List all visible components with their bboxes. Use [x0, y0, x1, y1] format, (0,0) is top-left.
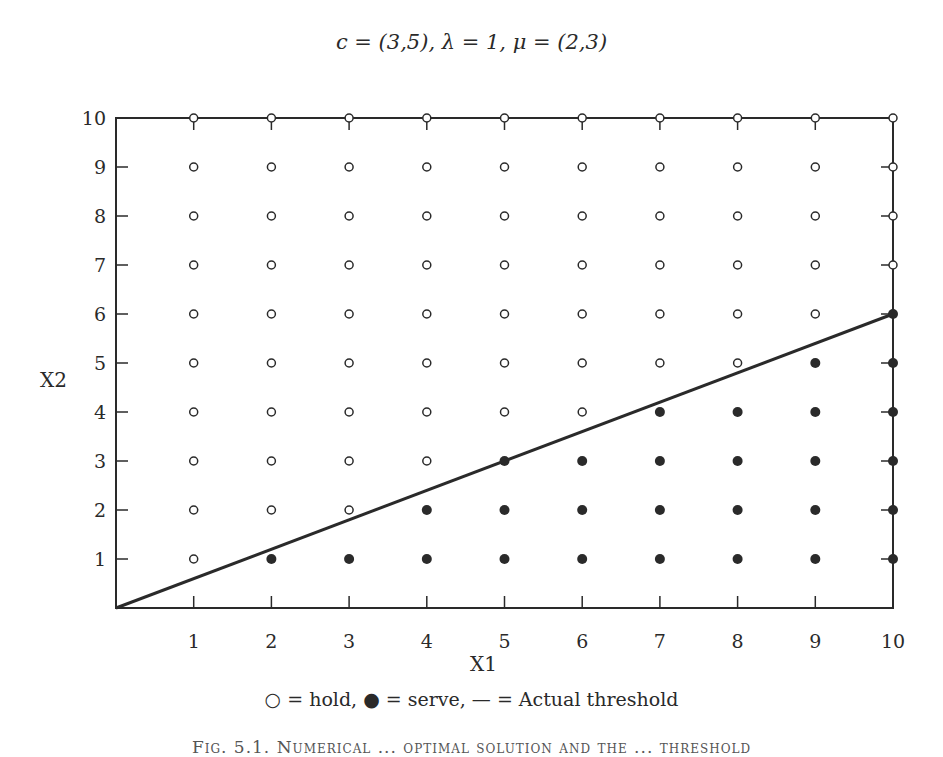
x-tick-label: 8	[732, 630, 744, 652]
serve-point	[888, 554, 898, 564]
y-tick-label: 2	[94, 499, 106, 521]
hold-point	[889, 114, 897, 122]
serve-point	[888, 505, 898, 515]
serve-point	[810, 505, 820, 515]
x-tick-label: 6	[576, 630, 588, 652]
hold-point	[578, 163, 586, 171]
serve-point	[733, 554, 743, 564]
serve-point	[655, 407, 665, 417]
y-tick-label: 9	[94, 156, 106, 178]
hold-point	[190, 114, 198, 122]
hold-point	[190, 163, 198, 171]
hold-point	[267, 310, 275, 318]
hold-point	[267, 212, 275, 220]
serve-point	[655, 554, 665, 564]
hold-point	[734, 212, 742, 220]
hold-point	[889, 261, 897, 269]
hold-point	[267, 359, 275, 367]
hold-point	[267, 408, 275, 416]
hold-point	[734, 114, 742, 122]
hold-point	[811, 163, 819, 171]
hold-point	[345, 163, 353, 171]
hold-point	[345, 408, 353, 416]
hold-point	[501, 114, 509, 122]
hold-point	[423, 261, 431, 269]
hold-point	[267, 163, 275, 171]
hold-point	[190, 310, 198, 318]
serve-point	[266, 554, 276, 564]
hold-point	[190, 359, 198, 367]
serve-point	[577, 456, 587, 466]
hold-point	[501, 310, 509, 318]
hold-point	[190, 212, 198, 220]
hold-point	[656, 212, 664, 220]
serve-point	[577, 554, 587, 564]
y-tick-label: 4	[94, 401, 106, 423]
hold-point	[578, 114, 586, 122]
hold-point	[267, 457, 275, 465]
hold-point	[811, 310, 819, 318]
serve-point	[655, 456, 665, 466]
y-tick-label: 7	[94, 254, 106, 276]
y-tick-label: 6	[94, 303, 106, 325]
hold-point	[345, 261, 353, 269]
hold-point	[345, 457, 353, 465]
hold-point	[345, 114, 353, 122]
hold-point	[501, 212, 509, 220]
y-tick-label: 8	[94, 205, 106, 227]
hold-point	[190, 506, 198, 514]
hold-point	[578, 212, 586, 220]
hold-point	[423, 457, 431, 465]
hold-point	[656, 261, 664, 269]
hold-point	[267, 114, 275, 122]
hold-point	[267, 261, 275, 269]
y-tick-label: 10	[82, 107, 106, 129]
hold-point	[656, 163, 664, 171]
hold-point	[656, 114, 664, 122]
serve-point	[810, 358, 820, 368]
serve-point	[500, 505, 510, 515]
hold-point	[889, 163, 897, 171]
hold-point	[811, 114, 819, 122]
hold-point	[811, 212, 819, 220]
y-tick-label: 5	[94, 352, 106, 374]
hold-point	[423, 408, 431, 416]
hold-point	[423, 359, 431, 367]
hold-point	[734, 163, 742, 171]
hold-point	[501, 261, 509, 269]
hold-point	[345, 506, 353, 514]
hold-point	[423, 114, 431, 122]
x-tick-label: 3	[343, 630, 355, 652]
hold-point	[423, 163, 431, 171]
hold-point	[190, 408, 198, 416]
hold-point	[578, 359, 586, 367]
hold-point	[734, 359, 742, 367]
hold-point	[501, 163, 509, 171]
hold-point	[578, 310, 586, 318]
serve-point	[422, 554, 432, 564]
hold-point	[345, 359, 353, 367]
x-tick-label: 4	[421, 630, 433, 652]
hold-point	[889, 212, 897, 220]
hold-point	[501, 408, 509, 416]
hold-point	[656, 310, 664, 318]
serve-point	[888, 407, 898, 417]
serve-point	[344, 554, 354, 564]
x-tick-label: 2	[265, 630, 277, 652]
hold-point	[423, 212, 431, 220]
y-tick-label: 1	[94, 548, 106, 570]
y-tick-label: 3	[94, 450, 106, 472]
serve-point	[888, 456, 898, 466]
x-axis-label: X1	[470, 652, 497, 676]
serve-point	[500, 554, 510, 564]
serve-point	[810, 456, 820, 466]
hold-point	[501, 359, 509, 367]
y-axis-label: X2	[40, 368, 67, 392]
hold-point	[423, 310, 431, 318]
hold-point	[811, 261, 819, 269]
serve-point	[577, 505, 587, 515]
serve-point	[810, 554, 820, 564]
figure-caption: Fig. 5.1. Numerical ... optimal solution…	[0, 737, 943, 757]
hold-point	[734, 310, 742, 318]
